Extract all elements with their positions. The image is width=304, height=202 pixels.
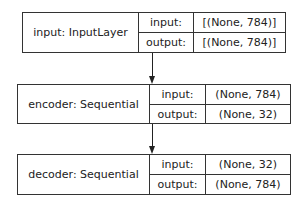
output-shape: (None, 784) bbox=[206, 175, 290, 194]
edge-line bbox=[152, 124, 153, 147]
output-shape: (None, 32) bbox=[206, 105, 290, 123]
input-shape: (None, 784) bbox=[206, 85, 290, 104]
output-label: output: bbox=[139, 33, 193, 52]
node-input-layer: input: InputLayer input: output: [(None,… bbox=[22, 12, 286, 53]
node-decoder: decoder: Sequential input: output: (None… bbox=[17, 154, 291, 195]
input-label: input: bbox=[150, 85, 205, 104]
output-label: output: bbox=[150, 175, 205, 194]
node-name: input: InputLayer bbox=[23, 13, 138, 52]
node-encoder: encoder: Sequential input: output: (None… bbox=[17, 84, 291, 124]
input-shape: [(None, 784)] bbox=[194, 13, 285, 32]
edge-line bbox=[152, 53, 153, 77]
output-label: output: bbox=[150, 105, 205, 123]
node-name: decoder: Sequential bbox=[18, 155, 149, 194]
arrow-down-icon bbox=[149, 146, 155, 154]
input-label: input: bbox=[150, 155, 205, 174]
input-shape: (None, 32) bbox=[206, 155, 290, 174]
node-name: encoder: Sequential bbox=[18, 85, 149, 123]
input-label: input: bbox=[139, 13, 193, 32]
output-shape: [(None, 784)] bbox=[194, 33, 285, 52]
arrow-down-icon bbox=[149, 76, 155, 84]
